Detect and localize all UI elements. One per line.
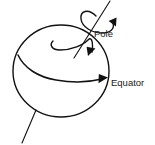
equator-label: Equator <box>111 77 144 88</box>
spin-direction-arrowhead <box>109 18 117 27</box>
equator-arrowhead <box>99 74 109 83</box>
equator-curve <box>18 55 102 82</box>
figure-root: Pole Equator <box>0 0 155 145</box>
rotation-axis-lower <box>22 110 36 143</box>
spiral-inner-loop <box>51 39 92 52</box>
sphere-rotation-diagram: Pole Equator <box>0 0 155 145</box>
pole-label: Pole <box>94 28 113 39</box>
spiral-inner-arrowhead <box>87 47 96 56</box>
